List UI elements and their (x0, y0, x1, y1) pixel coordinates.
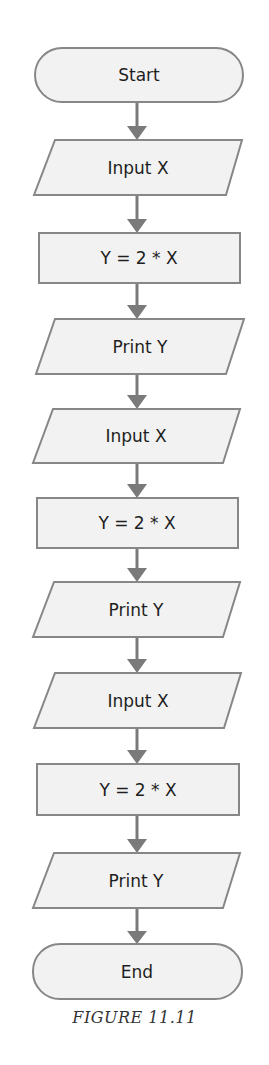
input-x-label-2: Input X (105, 426, 166, 446)
print-y-label-1: Print Y (113, 337, 169, 357)
start-terminator: Start (35, 48, 243, 102)
arrow-input-3-to-process-3 (127, 728, 147, 764)
arrow-start-to-input-1 (127, 102, 147, 140)
print-y-io-2: Print Y (33, 582, 240, 637)
process-y-equals-2x-3: Y = 2 * X (37, 764, 239, 815)
end-terminator: End (33, 944, 242, 999)
input-x-label-1: Input X (107, 158, 168, 178)
input-x-label-3: Input X (107, 691, 168, 711)
print-y-io-1: Print Y (36, 319, 244, 374)
arrow-input-2-to-process-2 (127, 463, 147, 498)
arrow-print-3-to-end (127, 908, 147, 944)
input-x-io-1: Input X (34, 140, 242, 195)
arrow-print-2-to-input-3 (127, 637, 147, 673)
process-label-1: Y = 2 * X (99, 248, 178, 268)
process-label-2: Y = 2 * X (97, 513, 176, 533)
arrow-process-1-to-print-1 (127, 283, 147, 319)
arrow-input-1-to-process-1 (127, 195, 147, 233)
figure-caption: FIGURE 11.11 (0, 1008, 269, 1027)
print-y-io-3: Print Y (33, 853, 240, 908)
process-y-equals-2x-1: Y = 2 * X (39, 233, 240, 283)
print-y-label-2: Print Y (109, 600, 165, 620)
arrow-process-3-to-print-3 (127, 815, 147, 853)
print-y-label-3: Print Y (109, 871, 165, 891)
start-label: Start (118, 65, 160, 85)
process-y-equals-2x-2: Y = 2 * X (37, 498, 238, 548)
flowchart: Start Input X Y = 2 * X Print Y Input X … (0, 0, 269, 1065)
input-x-io-3: Input X (34, 673, 241, 728)
arrow-print-1-to-input-2 (127, 374, 147, 409)
input-x-io-2: Input X (33, 409, 240, 463)
end-label: End (121, 962, 153, 982)
arrow-process-2-to-print-2 (127, 548, 147, 582)
process-label-3: Y = 2 * X (98, 780, 177, 800)
